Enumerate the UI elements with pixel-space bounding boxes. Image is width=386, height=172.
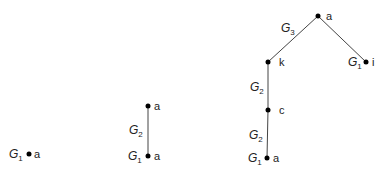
node-dot-a-bottom	[146, 154, 151, 159]
node-dot-c	[266, 108, 271, 113]
node-label-c: c	[279, 104, 285, 116]
tree-2: a G2 a G1	[128, 100, 161, 165]
node-label-i: i	[372, 56, 374, 68]
node-dot-k	[266, 60, 271, 65]
edge-label-g3: G3	[281, 21, 295, 37]
tree-3: a G3 k G1 i G2 c G2 G1 a	[248, 10, 374, 167]
edge-label-g2-lower: G2	[249, 128, 263, 144]
edge-root-i	[318, 16, 366, 62]
node-label-a-root: a	[326, 10, 333, 22]
node-label-a: a	[34, 148, 41, 160]
generator-label-g1-leaf: G1	[248, 151, 262, 167]
node-dot-a-root	[316, 14, 321, 19]
edge-label-g2-upper: G2	[250, 80, 264, 96]
edge-label-g2: G2	[129, 123, 143, 139]
tree-1: G1 a	[9, 147, 41, 163]
node-label-a-bottom: a	[154, 150, 161, 162]
generator-label-g1: G1	[9, 147, 23, 163]
node-label-a-leaf: a	[273, 152, 280, 164]
generator-label-g1-i: G1	[348, 55, 362, 71]
node-dot-a-top	[146, 104, 151, 109]
tree-diagram: G1 a a G2 a G1 a G3 k G1 i G2 c G2 G1 a	[0, 0, 386, 172]
node-label-k: k	[279, 56, 285, 68]
node-dot-a-leaf	[265, 156, 270, 161]
node-dot-i	[364, 60, 369, 65]
node-label-a-top: a	[154, 100, 161, 112]
generator-label-g1: G1	[128, 149, 142, 165]
edge-g3	[268, 16, 318, 62]
node-dot-a	[27, 152, 32, 157]
edge-g2-lower	[267, 110, 268, 158]
